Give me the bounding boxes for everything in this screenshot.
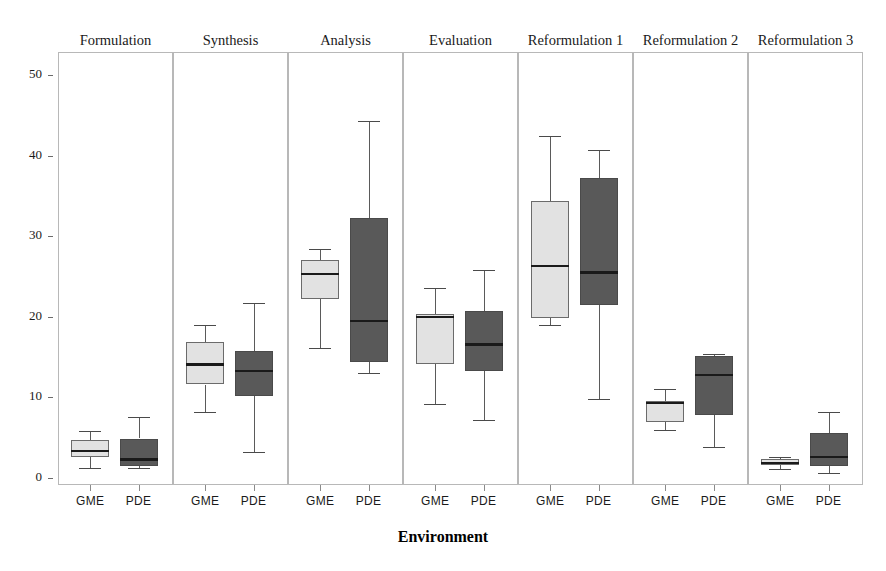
box-reformulation-1-gme-upper-whisker [550, 136, 551, 200]
box-evaluation-gme-lower-cap [424, 404, 446, 405]
y-axis-tick-mark [48, 156, 53, 157]
box-formulation-gme-median [71, 450, 109, 452]
box-synthesis-pde-lower-whisker [254, 396, 255, 452]
panel-frame-4 [403, 52, 518, 485]
x-axis-tick-label-gme: GME [524, 494, 576, 508]
x-axis-tick-label-gme: GME [64, 494, 116, 508]
panel-strip-label-2: Synthesis [165, 32, 296, 49]
box-formulation-gme[interactable] [71, 440, 109, 457]
box-synthesis-pde-upper-cap [243, 303, 265, 304]
box-analysis-pde-upper-cap [358, 121, 380, 122]
box-analysis-gme-lower-whisker [320, 299, 321, 348]
box-analysis-gme-lower-cap [309, 348, 331, 349]
box-reformulation-2-pde-lower-whisker [714, 415, 715, 446]
x-axis-tick-label-gme: GME [754, 494, 806, 508]
top-cut-text [0, 0, 886, 14]
x-axis-tick-label-pde: PDE [228, 494, 280, 508]
y-axis-tick-label: 20 [16, 308, 42, 324]
box-evaluation-gme-upper-whisker [435, 288, 436, 315]
y-axis-tick-mark [48, 75, 53, 76]
panel-strip-label-5: Reformulation 1 [510, 32, 641, 49]
box-formulation-gme-upper-cap [79, 431, 101, 432]
box-reformulation-3-gme-median [761, 462, 799, 464]
box-analysis-gme-median [301, 273, 339, 275]
panel-strip-label-4: Evaluation [395, 32, 526, 49]
box-analysis-pde-median [350, 320, 388, 322]
y-axis-tick-label: 10 [16, 388, 42, 404]
box-analysis-gme-upper-whisker [320, 249, 321, 260]
box-synthesis-pde[interactable] [235, 351, 273, 395]
y-axis-tick-label: 50 [16, 66, 42, 82]
y-axis-tick-mark [48, 317, 53, 318]
x-axis-tick-mark [369, 485, 370, 491]
box-formulation-pde[interactable] [120, 439, 158, 466]
box-analysis-pde[interactable] [350, 218, 388, 361]
box-evaluation-pde-lower-cap [473, 420, 495, 421]
x-axis-tick-mark [435, 485, 436, 491]
x-axis-tick-mark [320, 485, 321, 491]
x-axis-tick-label-gme: GME [409, 494, 461, 508]
panel-strip-label-3: Analysis [280, 32, 411, 49]
y-axis-tick-label: 0 [16, 469, 42, 485]
x-axis-tick-mark [599, 485, 600, 491]
box-analysis-gme-upper-cap [309, 249, 331, 250]
box-formulation-pde-upper-whisker [139, 417, 140, 439]
x-axis-tick-mark [254, 485, 255, 491]
box-formulation-pde-upper-cap [128, 417, 150, 418]
box-reformulation-3-pde-upper-whisker [829, 412, 830, 433]
x-axis-title: Environment [0, 528, 886, 546]
box-formulation-gme-lower-cap [79, 468, 101, 469]
box-reformulation-2-pde-lower-cap [703, 447, 725, 448]
x-axis-tick-label-pde: PDE [573, 494, 625, 508]
box-synthesis-pde-median [235, 370, 273, 372]
box-reformulation-2-gme-lower-cap [654, 430, 676, 431]
box-reformulation-3-pde-lower-whisker [829, 466, 830, 473]
panel-strip-label-1: Formulation [50, 32, 181, 49]
box-reformulation-3-gme-lower-cap [769, 469, 791, 470]
x-axis-tick-label-pde: PDE [113, 494, 165, 508]
box-evaluation-pde[interactable] [465, 311, 503, 371]
x-axis-tick-mark [714, 485, 715, 491]
box-synthesis-pde-upper-whisker [254, 303, 255, 351]
box-formulation-gme-upper-whisker [90, 431, 91, 440]
box-evaluation-pde-lower-whisker [484, 371, 485, 420]
x-axis-tick-label-pde: PDE [343, 494, 395, 508]
box-reformulation-1-pde[interactable] [580, 178, 618, 305]
box-formulation-pde-lower-cap [128, 468, 150, 469]
box-analysis-gme[interactable] [301, 260, 339, 299]
x-axis-tick-mark [665, 485, 666, 491]
panel-frame-1 [58, 52, 173, 485]
box-reformulation-3-gme-upper-cap [769, 457, 791, 458]
x-axis-tick-mark [484, 485, 485, 491]
x-axis-tick-mark [829, 485, 830, 491]
box-reformulation-2-pde[interactable] [695, 356, 733, 415]
box-reformulation-1-gme-lower-cap [539, 325, 561, 326]
x-axis-tick-label-pde: PDE [688, 494, 740, 508]
box-synthesis-gme-upper-cap [194, 325, 216, 326]
x-axis-tick-mark [139, 485, 140, 491]
x-axis-tick-label-gme: GME [294, 494, 346, 508]
box-reformulation-1-gme-median [531, 265, 569, 267]
box-reformulation-2-pde-median [695, 374, 733, 376]
box-reformulation-2-gme-upper-whisker [665, 389, 666, 400]
x-axis-tick-label-gme: GME [179, 494, 231, 508]
box-evaluation-gme-lower-whisker [435, 364, 436, 403]
x-axis-tick-label-gme: GME [639, 494, 691, 508]
box-reformulation-3-pde-median [810, 456, 848, 458]
x-axis-tick-label-pde: PDE [803, 494, 855, 508]
box-plot-figure: 01020304050FormulationGMEPDESynthesisGME… [0, 0, 886, 571]
y-axis-tick-label: 40 [16, 147, 42, 163]
box-evaluation-gme[interactable] [416, 314, 454, 364]
box-evaluation-pde-median [465, 343, 503, 345]
box-formulation-pde-median [120, 458, 158, 460]
box-reformulation-3-pde[interactable] [810, 433, 848, 466]
box-reformulation-1-gme[interactable] [531, 201, 569, 319]
box-analysis-pde-upper-whisker [369, 121, 370, 219]
box-reformulation-1-pde-lower-cap [588, 399, 610, 400]
box-evaluation-pde-upper-cap [473, 270, 495, 271]
panel-strip-label-6: Reformulation 2 [625, 32, 756, 49]
x-axis-tick-mark [90, 485, 91, 491]
y-axis-tick-mark [48, 397, 53, 398]
box-formulation-gme-lower-whisker [90, 457, 91, 467]
panel-strip-label-7: Reformulation 3 [740, 32, 871, 49]
